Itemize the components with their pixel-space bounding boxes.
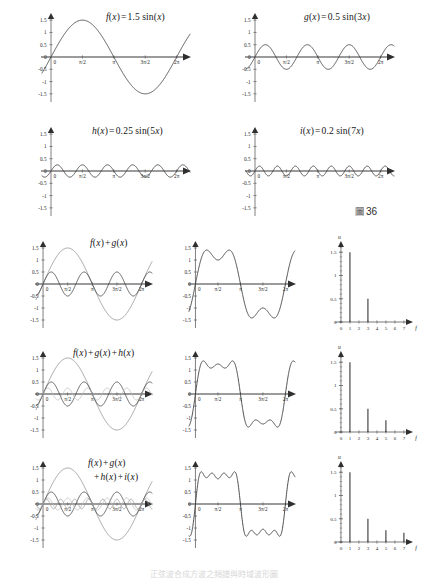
y-tick-label: 1.5: [330, 360, 337, 365]
y-tick-label: 1.5: [184, 245, 191, 251]
x-tick-label: 2π: [283, 506, 289, 512]
x-tick-label: 6: [394, 546, 397, 551]
y-tick-label: 0: [36, 391, 39, 397]
x-tick-label: π: [317, 173, 320, 179]
y-tick-label: 1: [44, 29, 47, 35]
x-tick-label: 5: [385, 436, 388, 441]
y-axis-arrow: [40, 241, 46, 247]
x-tick-label: π/2: [64, 396, 71, 402]
y-tick-label: -1.5: [38, 205, 47, 211]
chart-i-component: 1.510.50-0.5-1-1.50π/2π3π/22π i(x) = 0.2…: [222, 122, 404, 234]
y-tick-label: -1: [187, 525, 192, 531]
x-tick-label: 0: [54, 59, 57, 65]
x-tick-label: 3π/2: [258, 506, 268, 512]
y-axis-arrow: [40, 461, 46, 467]
formula-overlay-1: f(x) + g(x): [90, 238, 128, 248]
spectrum-svg: uf1.510.5001234567: [310, 234, 422, 340]
y-tick-label: 1: [188, 257, 191, 263]
y-tick-label: -1.5: [242, 91, 251, 97]
x-axis-arrow: [406, 429, 413, 435]
y-tick-label: 0: [188, 501, 191, 507]
formula-g: g(x) = 0.5 sin(3x): [304, 12, 370, 22]
chart-svg: 1.510.50-0.5-1-1.50π/2π3π/22π: [10, 236, 160, 344]
formula-f: f(x) = 1.5 sin(x): [106, 12, 165, 22]
y-tick-label: 0.5: [40, 156, 47, 162]
y-tick-label: 1: [36, 477, 39, 483]
x-tick-label: π/2: [64, 286, 71, 292]
x-tick-label: 3π/2: [141, 173, 151, 179]
x-axis-arrow: [387, 53, 395, 60]
x-tick-label: 0: [198, 506, 201, 512]
y-tick-label: 0.5: [184, 379, 191, 385]
formula-overlay-2: f(x) + g(x) + h(x): [73, 348, 134, 358]
spectrum-svg: uf1.510.5001234567: [310, 454, 422, 560]
spectrum-x-axis-name: f: [415, 545, 418, 551]
x-axis-arrow: [406, 319, 413, 325]
x-tick-label: π/2: [215, 506, 222, 512]
x-tick-label: 7: [403, 326, 406, 331]
x-tick-label: 2: [358, 546, 361, 551]
y-tick-label: -0.5: [242, 180, 251, 186]
y-tick-label: -1: [34, 305, 39, 311]
formula-overlay-3-line2: + h(x) + i(x): [94, 472, 138, 482]
y-tick-label: 1.5: [40, 131, 47, 137]
chart-svg: 1.510.50-0.5-1-1.50π/2π3π/22π: [163, 346, 303, 454]
x-tick-label: π/2: [215, 396, 222, 402]
x-tick-label: 0: [54, 173, 57, 179]
chart-sum-row3: 1.510.50-0.5-1-1.50π/2π3π/22π: [163, 456, 303, 564]
chart-spectrum-row3: uf1.510.5001234567: [310, 454, 422, 560]
x-tick-label: 5: [385, 546, 388, 551]
y-tick-label: -1.5: [38, 91, 47, 97]
x-tick-label: 3π/2: [112, 286, 122, 292]
x-tick-label: 1: [349, 326, 352, 331]
x-tick-label: 2π: [283, 396, 289, 402]
spectrum-svg: uf1.510.5001234567: [310, 344, 422, 450]
y-tick-label: 0.5: [330, 517, 337, 522]
y-axis-arrow: [252, 13, 258, 19]
x-tick-label: 3π/2: [258, 286, 268, 292]
x-axis-arrow: [288, 390, 296, 397]
x-tick-label: π/2: [79, 59, 86, 65]
bottom-caption: 正弦波合成方波之頻譜與時域波形圖: [0, 568, 427, 579]
x-tick-label: 6: [394, 436, 397, 441]
x-tick-label: 7: [403, 436, 406, 441]
spectrum-x-axis-name: f: [415, 325, 418, 331]
y-tick-label: 1: [188, 477, 191, 483]
y-tick-label: 0.5: [32, 379, 39, 385]
y-tick-label: -1: [34, 525, 39, 531]
x-tick-label: 4: [376, 436, 379, 441]
x-tick-label: 3: [367, 546, 370, 551]
y-tick-label: 0: [44, 168, 47, 174]
y-tick-label: 0: [36, 281, 39, 287]
x-axis-arrow: [183, 53, 191, 60]
plot-area-g: 1.510.50-0.5-1-1.50π/2π3π/22π: [222, 8, 404, 120]
x-axis-arrow: [288, 500, 296, 507]
chart-f-component: 1.510.50-0.5-1-1.50π/2π3π/22π f(x) = 1.5…: [18, 8, 200, 120]
x-tick-label: 7: [403, 546, 406, 551]
y-tick-label: 0.5: [32, 489, 39, 495]
y-axis-arrow: [48, 127, 54, 133]
y-tick-label: 0.5: [32, 269, 39, 275]
x-tick-label: 3π/2: [345, 59, 355, 65]
y-axis-arrow: [338, 241, 344, 247]
plot-area-f: 1.510.50-0.5-1-1.50π/2π3π/22π: [18, 8, 200, 120]
y-tick-label: -1.5: [183, 427, 192, 433]
spectrum-y-axis-name: u: [338, 234, 341, 240]
y-tick-label: 1: [36, 257, 39, 263]
y-tick-label: 0.5: [184, 269, 191, 275]
y-tick-label: 1: [334, 273, 337, 278]
y-tick-label: 1.5: [184, 355, 191, 361]
y-tick-label: 1: [248, 143, 251, 149]
x-tick-label: 0: [340, 326, 343, 331]
y-tick-label: -1: [187, 415, 192, 421]
x-tick-label: 5: [385, 326, 388, 331]
y-tick-label: 0: [248, 168, 251, 174]
chart-overlay-row3: 1.510.50-0.5-1-1.50π/2π3π/22π f(x) + g(x…: [10, 456, 160, 564]
y-tick-label: 1.5: [244, 131, 251, 137]
plot-area-sum-2: 1.510.50-0.5-1-1.50π/2π3π/22π: [163, 346, 303, 454]
x-tick-label: 6: [394, 326, 397, 331]
x-axis-arrow: [406, 539, 413, 545]
y-tick-label: 1: [334, 383, 337, 388]
x-tick-label: 0: [198, 286, 201, 292]
spectrum-x-axis-name: f: [415, 435, 418, 441]
